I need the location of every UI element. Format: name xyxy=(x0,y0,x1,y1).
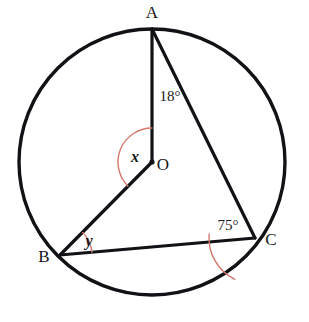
center-point-dot xyxy=(149,159,154,164)
vertex-label-B: B xyxy=(38,247,49,266)
angle-label-75-degrees: 75° xyxy=(218,217,239,233)
angle-label-x: x xyxy=(130,148,139,165)
segment-O-B xyxy=(60,162,152,255)
angle-label-18-degrees: 18° xyxy=(160,88,181,104)
angle-label-y: y xyxy=(83,232,93,250)
vertex-label-C: C xyxy=(265,230,276,249)
vertex-label-O: O xyxy=(157,155,169,174)
vertex-label-A: A xyxy=(146,3,159,22)
geometry-figure: A B C O 18° x y 75° xyxy=(0,0,309,322)
